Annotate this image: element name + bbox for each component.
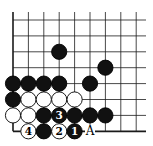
black-stone xyxy=(21,76,36,91)
white-stone xyxy=(21,108,36,123)
white-stone-move-2: 2 xyxy=(52,124,67,139)
black-stone-move-3: 3 xyxy=(52,108,67,123)
black-stone xyxy=(36,124,51,139)
move-number: 1 xyxy=(71,125,78,137)
black-stone xyxy=(36,108,51,123)
black-stone xyxy=(36,76,51,91)
move-number: 4 xyxy=(25,125,32,137)
black-stone xyxy=(52,76,67,91)
go-board: 3421 A xyxy=(0,0,153,146)
stones-layer: 3421 xyxy=(5,44,113,139)
white-stone xyxy=(36,92,51,107)
black-stone xyxy=(5,76,20,91)
white-stone xyxy=(67,92,82,107)
white-stone-move-4: 4 xyxy=(21,124,36,139)
black-stone xyxy=(67,108,82,123)
black-stone xyxy=(82,76,97,91)
move-number: 2 xyxy=(56,125,63,137)
black-stone xyxy=(52,44,67,59)
black-stone xyxy=(98,60,113,75)
point-label-A: A xyxy=(85,124,95,138)
markers-layer: A xyxy=(85,124,95,138)
white-stone xyxy=(52,92,67,107)
white-stone xyxy=(5,108,20,123)
black-stone xyxy=(98,108,113,123)
move-number: 3 xyxy=(56,109,63,121)
black-stone-move-1: 1 xyxy=(67,124,82,139)
black-stone xyxy=(5,92,20,107)
black-stone xyxy=(82,108,97,123)
white-stone xyxy=(21,92,36,107)
